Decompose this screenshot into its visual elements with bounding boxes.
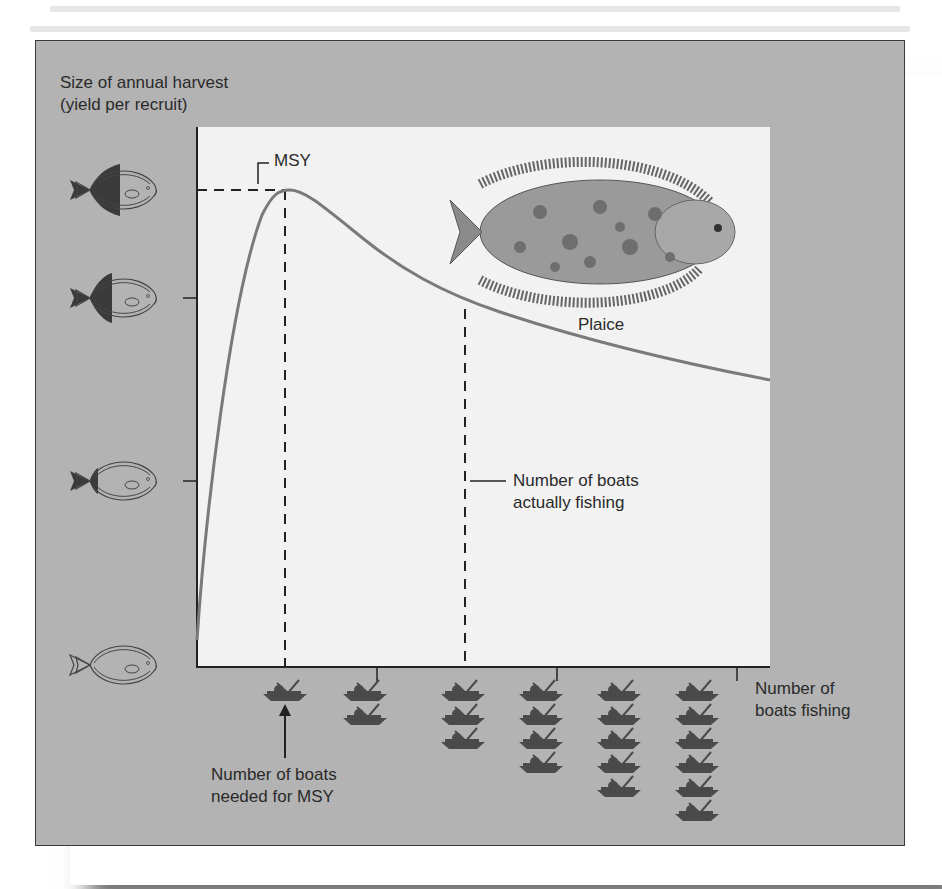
boat-column-1: [263, 680, 307, 701]
boat-column-3: [441, 680, 485, 749]
plaice-label: Plaice: [578, 314, 624, 336]
x-axis-title-line1: Number of: [755, 678, 850, 700]
fish-icon-msy: [70, 164, 156, 216]
plaice-illustration: [450, 162, 735, 303]
x-axis-title: Number of boats fishing: [755, 678, 850, 722]
fish-icon-high: [70, 273, 156, 323]
needed-boats-label-line2: needed for MSY: [211, 786, 337, 808]
boat-column-5: [597, 680, 641, 797]
fish-icon-zero: [70, 646, 156, 684]
x-axis-title-line2: boats fishing: [755, 700, 850, 722]
needed-boats-label: Number of boats needed for MSY: [211, 764, 337, 808]
boat-column-2: [343, 680, 387, 725]
fish-icon-low: [70, 462, 156, 500]
actual-boats-label: Number of boats actually fishing: [513, 470, 639, 514]
chart-graphics: [0, 0, 942, 889]
msy-label: MSY: [274, 150, 311, 172]
needed-boats-label-line1: Number of boats: [211, 764, 337, 786]
actual-boats-label-line1: Number of boats: [513, 470, 639, 492]
actual-boats-label-line2: actually fishing: [513, 492, 639, 514]
boat-column-6: [675, 680, 719, 821]
boat-column-4: [519, 680, 563, 773]
